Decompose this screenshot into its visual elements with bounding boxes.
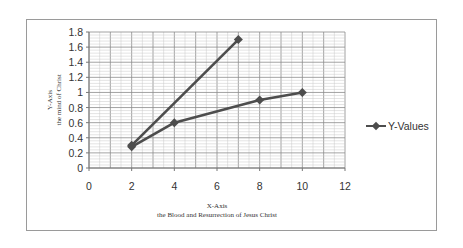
x-tick-label: 8 [257, 180, 263, 192]
x-tick-label: 6 [214, 180, 220, 192]
x-axis-title-line1: X-Axis [207, 202, 228, 210]
chart: 024681012 00.20.40.60.811.21.41.61.8 Y-A… [0, 0, 463, 248]
x-tick-label: 2 [129, 180, 135, 192]
gridlines [89, 32, 345, 168]
x-axis-title-line2: the Blood and Resurrection of Jesus Chri… [157, 211, 277, 219]
x-tick-labels: 024681012 [86, 180, 351, 192]
x-tick-label: 4 [171, 180, 177, 192]
x-tick-label: 12 [339, 180, 351, 192]
y-axis-title-line1: Y-Axis [46, 90, 54, 110]
y-tick-label: 0.8 [68, 102, 83, 114]
y-tick-label: 1.8 [68, 26, 83, 38]
y-tick-label: 1.6 [68, 41, 83, 53]
legend-label: Y-Values [388, 120, 429, 132]
legend: Y-Values [366, 120, 429, 132]
y-tick-label: 0.2 [68, 147, 83, 159]
x-tick-label: 10 [296, 180, 308, 192]
y-tick-label: 1.4 [68, 56, 83, 68]
legend-marker-icon [372, 122, 380, 130]
y-axis-title: Y-Axis the mind of Christ [46, 74, 63, 125]
y-axis-title-line2: the mind of Christ [55, 74, 63, 125]
data-point-marker [255, 95, 264, 104]
x-tick-label: 0 [86, 180, 92, 192]
y-tick-label: 1.2 [68, 71, 83, 83]
y-tick-label: 1 [77, 86, 83, 98]
y-tick-label: 0 [77, 162, 83, 174]
y-tick-label: 0.6 [68, 117, 83, 129]
y-tick-label: 0.4 [68, 132, 83, 144]
y-tick-labels: 00.20.40.60.811.21.41.61.8 [68, 26, 83, 174]
